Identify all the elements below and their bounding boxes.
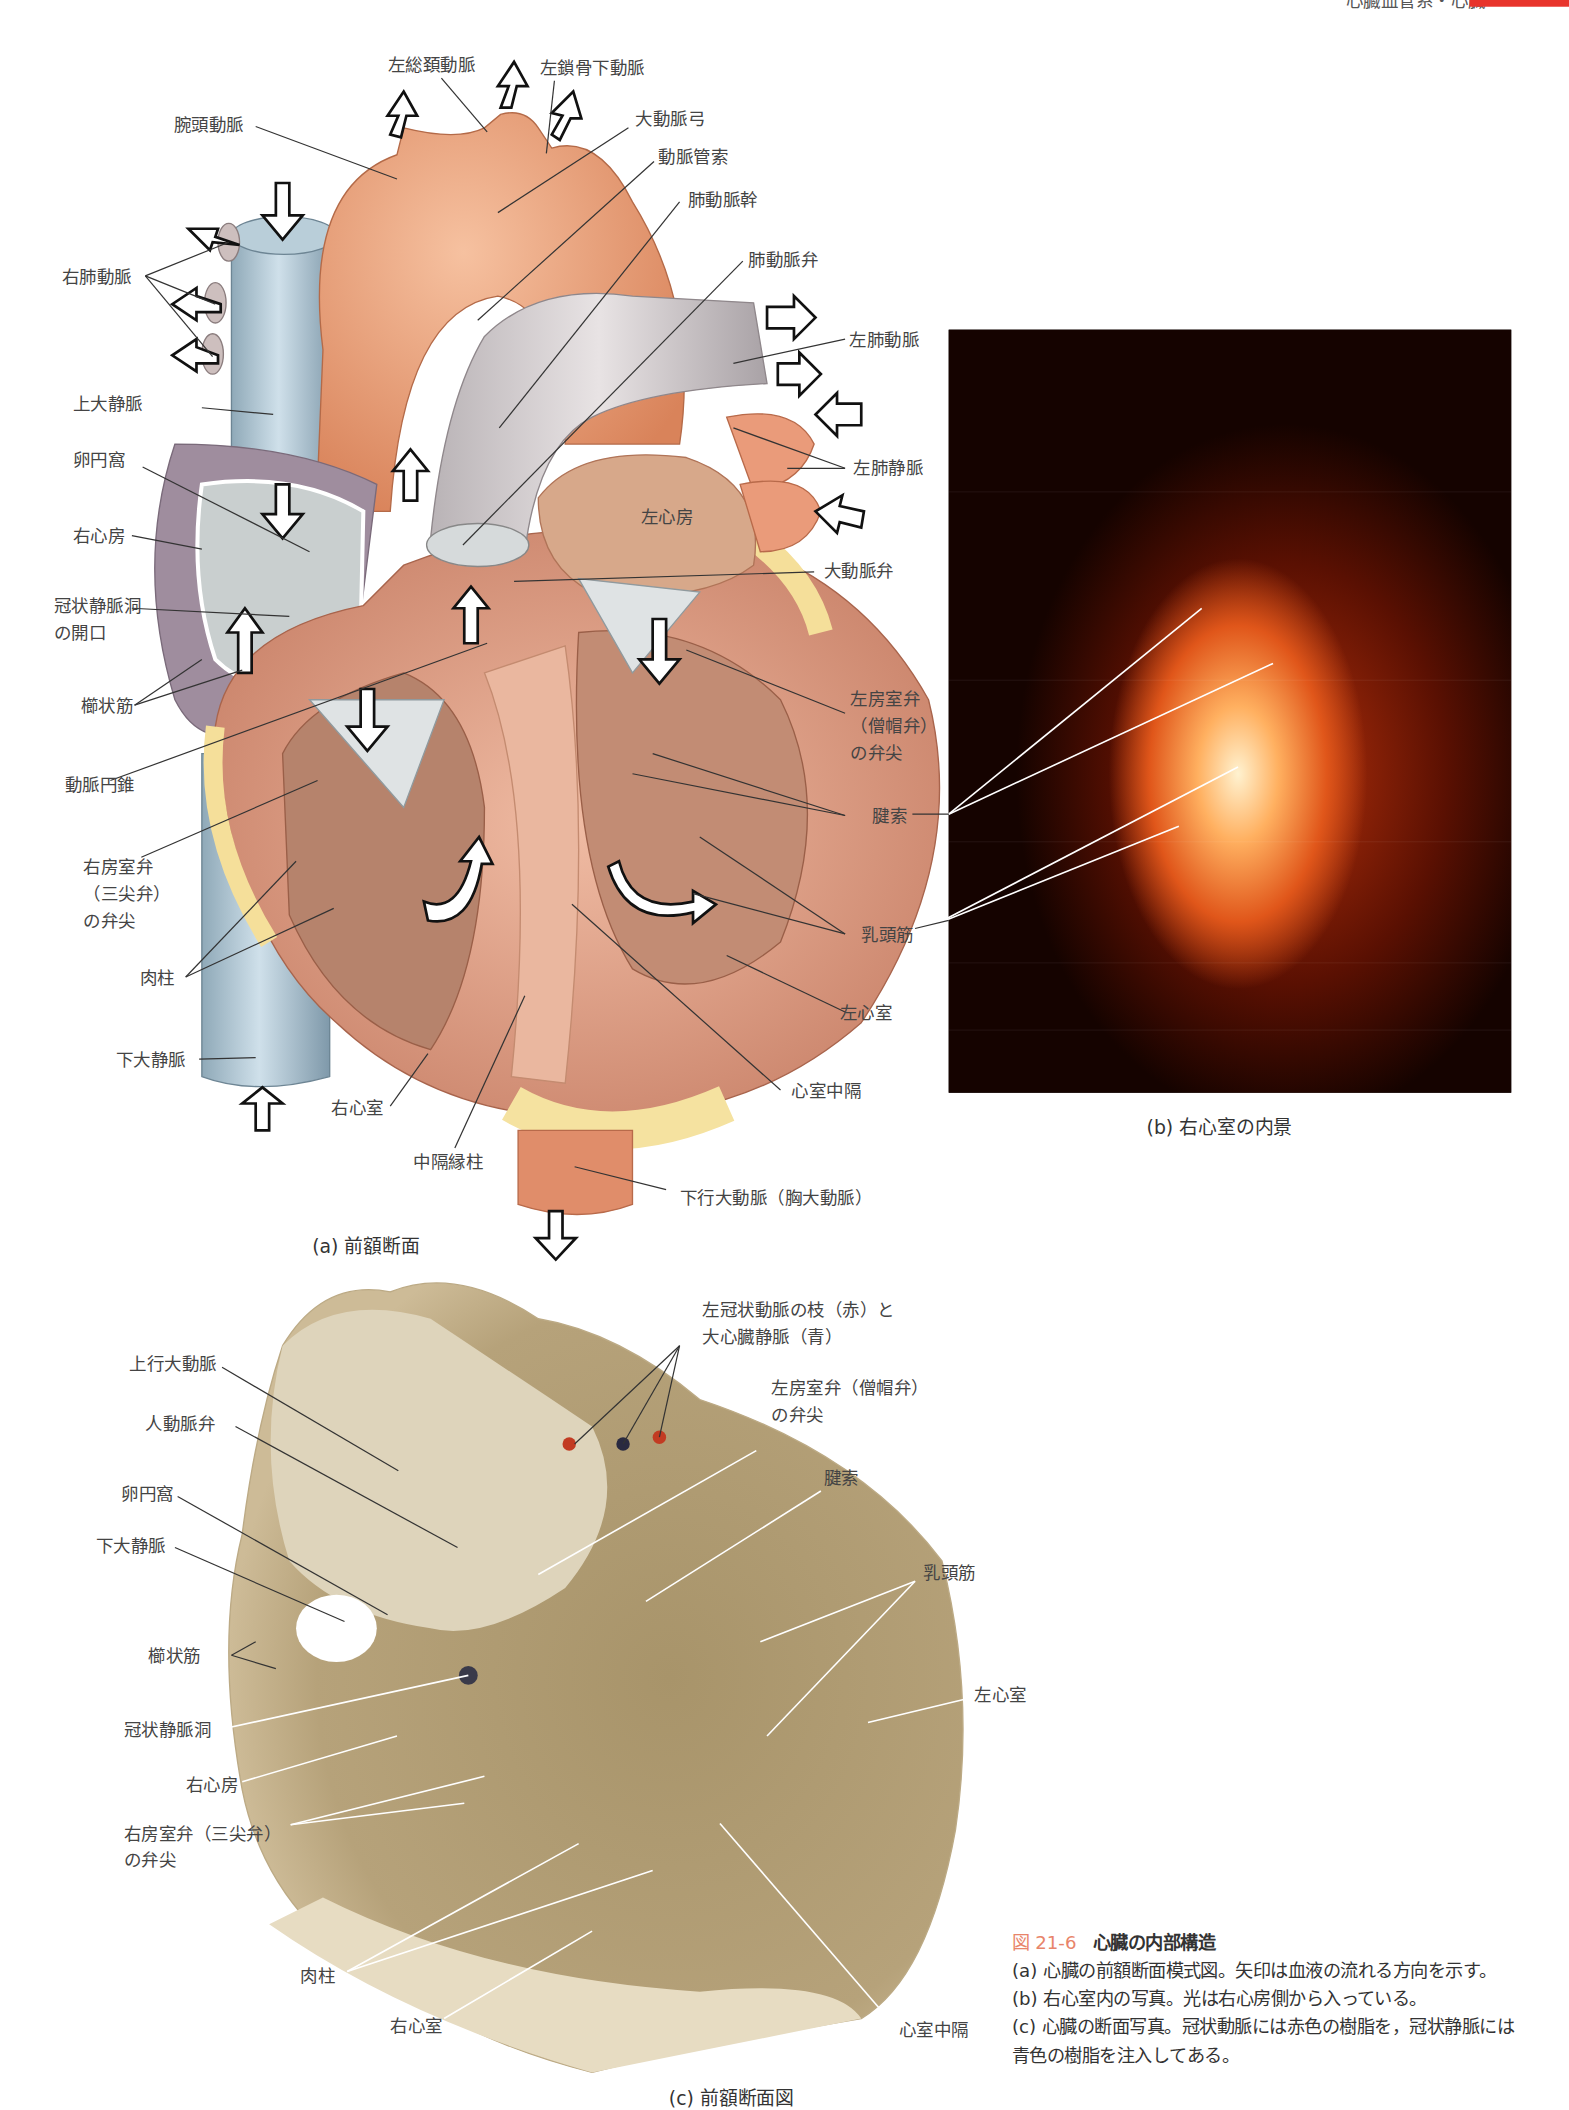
label-c-left-ventricle: 左心室 xyxy=(974,1683,1026,1706)
label-c-coronary-vessels: 左冠状動脈の枝（赤）と 大心臓静脈（青） xyxy=(702,1297,894,1351)
figure-b-photo xyxy=(949,330,1512,1093)
figure-caption-heading: 図 21-6心臓の内部構造 xyxy=(1012,1928,1523,1956)
label-aortic-arch: 大動脈弓 xyxy=(635,108,705,131)
label-fossa-ovalis: 卵円窩 xyxy=(73,448,125,471)
label-trabeculae-carneae: 肉柱 xyxy=(140,966,175,989)
label-c-interventricular-septum: 心室中隔 xyxy=(899,2019,969,2042)
label-c-right-ventricle: 右心室 xyxy=(390,2015,442,2038)
page: 心臓血管系・心臓 xyxy=(0,0,1569,2110)
figure-b-caption: (b) 右心室の内景 xyxy=(1147,1113,1293,1140)
label-c-tricuspid-cusp: 右房室弁（三尖弁） の弁尖 xyxy=(124,1821,281,1875)
label-c-ascending-aorta: 上行大動脈 xyxy=(129,1352,216,1375)
figure-caption-line-b: (b) 右心室内の写真。光は右心房側から入っている。 xyxy=(1012,1985,1523,2013)
label-c-papillary-muscles: 乳頭筋 xyxy=(923,1561,975,1584)
label-mitral-cusp: 左房室弁 （僧帽弁） の弁尖 xyxy=(850,686,937,767)
label-descending-aorta: 下行大動脈（胸大動脈） xyxy=(680,1187,872,1210)
label-left-pulmonary-veins: 左肺静脈 xyxy=(853,456,923,479)
label-left-pulmonary-arteries: 左肺動脈 xyxy=(849,328,919,351)
label-c-trabeculae-carneae: 肉柱 xyxy=(300,1965,335,1988)
label-superior-vena-cava: 上大静脈 xyxy=(73,393,143,416)
label-right-ventricle: 右心室 xyxy=(331,1097,383,1120)
figure-a-caption: (a) 前額断面 xyxy=(312,1231,420,1258)
running-header: 心臓血管系・心臓 xyxy=(1346,0,1486,12)
chapter-tab xyxy=(1470,0,1569,7)
label-pulmonary-valve: 肺動脈弁 xyxy=(748,249,818,272)
label-c-inferior-vena-cava: 下大静脈 xyxy=(96,1534,166,1557)
label-papillary-muscles: 乳頭筋 xyxy=(861,923,913,946)
figure-number: 図 21-6 xyxy=(1012,1931,1077,1953)
figure-c-caption: (c) 前額断面図 xyxy=(669,2083,794,2110)
label-aortic-valve: 大動脈弁 xyxy=(824,560,894,583)
figure-caption-line-a: (a) 心臓の前額断面模式図。矢印は血液の流れる方向を示す。 xyxy=(1012,1957,1523,1985)
label-left-subclavian: 左鎖骨下動脈 xyxy=(540,57,645,80)
label-c-fossa-ovalis: 卵円窩 xyxy=(121,1483,173,1506)
label-brachiocephalic: 腕頭動脈 xyxy=(174,113,244,136)
label-coronary-sinus-opening: 冠状静脈洞 の開口 xyxy=(54,593,141,647)
figure-caption: 図 21-6心臓の内部構造 (a) 心臓の前額断面模式図。矢印は血液の流れる方向… xyxy=(1012,1928,1523,2069)
label-c-mitral-cusp: 左房室弁（僧帽弁） の弁尖 xyxy=(771,1375,928,1429)
label-chordae-tendineae: 腱索 xyxy=(872,805,907,828)
label-inferior-vena-cava: 下大静脈 xyxy=(116,1048,186,1071)
label-c-coronary-sinus: 冠状静脈洞 xyxy=(124,1718,211,1741)
label-right-pulmonary-arteries: 右肺動脈 xyxy=(62,265,132,288)
label-septomarginal-trabecula: 中隔縁柱 xyxy=(413,1151,483,1174)
label-c-chordae-tendineae: 腱索 xyxy=(824,1467,859,1490)
label-right-atrium: 右心房 xyxy=(73,525,125,548)
label-conus-arteriosus: 動脈円錐 xyxy=(65,774,135,797)
figure-title: 心臓の内部構造 xyxy=(1093,1931,1215,1953)
label-left-ventricle: 左心室 xyxy=(840,1001,892,1024)
label-c-pectinate-muscles: 櫛状筋 xyxy=(148,1644,200,1667)
label-pectinate-muscles: 櫛状筋 xyxy=(81,694,133,717)
label-c-right-atrium: 右心房 xyxy=(186,1774,238,1797)
figure-caption-line-c: (c) 心臓の断面写真。冠状動脈には赤色の樹脂を，冠状静脈には青色の樹脂を注入し… xyxy=(1012,2013,1523,2070)
label-left-atrium: 左心房 xyxy=(641,506,693,529)
label-c-aortic-valve: 人動脈弁 xyxy=(145,1413,215,1436)
label-pulmonary-trunk: 肺動脈幹 xyxy=(688,188,758,211)
label-tricuspid-cusp: 右房室弁 （三尖弁） の弁尖 xyxy=(83,855,170,936)
label-ligamentum-arteriosum: 動脈管索 xyxy=(658,145,728,168)
label-left-common-carotid: 左総頚動脈 xyxy=(388,54,475,77)
label-interventricular-septum: 心室中隔 xyxy=(791,1079,861,1102)
